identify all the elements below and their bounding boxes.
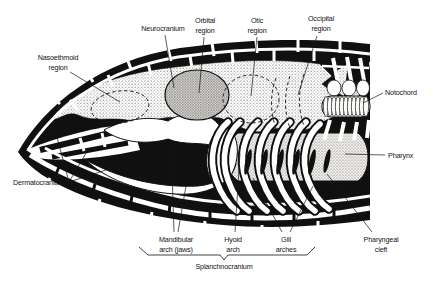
label-otic-2: region bbox=[247, 26, 266, 35]
label-dermatocranium: Dermatocranium bbox=[13, 178, 64, 187]
label-pharyngeal-cleft-2: cleft bbox=[375, 245, 388, 254]
label-gill-arches: Gill bbox=[281, 235, 291, 244]
figure-canvas: Nasoethmoid region Neurocranium Orbital … bbox=[0, 0, 433, 282]
label-mandibular-arch: Mandibular bbox=[159, 235, 194, 244]
label-splanchnocranium: Splanchnocranium bbox=[195, 262, 252, 271]
skull-drawing bbox=[18, 39, 374, 233]
label-occipital: Occipital bbox=[308, 14, 335, 23]
label-orbital-2: region bbox=[195, 26, 214, 35]
cranium-diagram: Nasoethmoid region Neurocranium Orbital … bbox=[0, 0, 433, 282]
label-gill-arches-2: arches bbox=[276, 245, 297, 254]
label-pharynx: Pharynx bbox=[388, 151, 414, 160]
label-occipital-2: region bbox=[311, 24, 330, 33]
label-orbital: Orbital bbox=[195, 16, 216, 25]
label-nasoethmoid-2: region bbox=[48, 63, 67, 72]
label-hyoid-arch: Hyoid bbox=[224, 235, 242, 244]
label-neurocranium: Neurocranium bbox=[141, 24, 185, 33]
label-pharyngeal-cleft: Pharyngeal bbox=[364, 235, 399, 244]
notochord-rod bbox=[322, 96, 370, 117]
label-otic: Otic bbox=[251, 16, 264, 25]
orbital-region-marker bbox=[165, 70, 229, 120]
label-notochord: Notochord bbox=[385, 88, 417, 97]
label-mandibular-arch-2: arch (jaws) bbox=[159, 245, 193, 254]
label-hyoid-arch-2: arch bbox=[226, 245, 240, 254]
label-nasoethmoid: Nasoethmoid bbox=[38, 53, 79, 62]
